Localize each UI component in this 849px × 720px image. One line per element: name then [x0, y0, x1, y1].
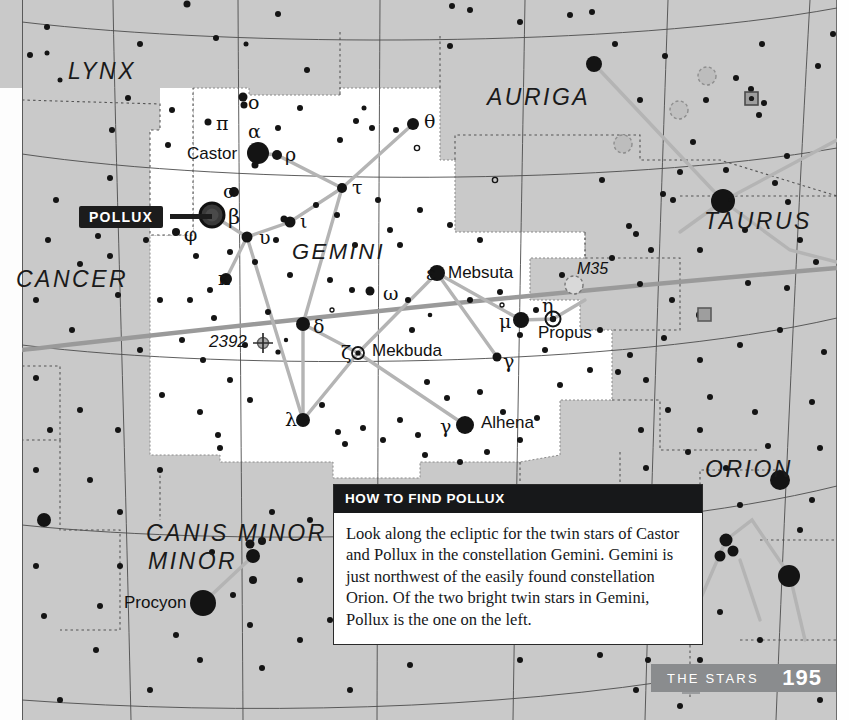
bayer-label-zeta: ζ: [341, 341, 351, 363]
how-to-find-body: Look along the ecliptic for the twin sta…: [334, 513, 702, 644]
how-to-find-title: HOW TO FIND POLLUX: [334, 485, 702, 513]
bayer-label-omega: ω: [383, 282, 399, 304]
constellation-label-canis-minor-2: MINOR: [148, 548, 237, 575]
footer-page-number: 195: [782, 665, 822, 691]
star-label-castor: Castor: [187, 144, 237, 164]
bayer-label-beta: β: [228, 205, 240, 229]
bayer-label-alpha: α: [248, 120, 261, 142]
pollux-callout-tag[interactable]: POLLUX: [79, 206, 163, 228]
constellation-label-gemini: GEMINI: [292, 239, 385, 265]
page-footer: THE STARS 195: [651, 664, 836, 692]
bayer-label-nu: γ: [503, 350, 514, 372]
bayer-label-omicron: ο: [248, 91, 259, 113]
bayer-label-epsilon: ε: [426, 262, 436, 284]
how-to-find-box: HOW TO FIND POLLUX Look along the eclipt…: [333, 484, 703, 645]
m35-cluster-symbol: [565, 276, 583, 294]
bayer-label-iota: ι: [300, 210, 307, 232]
constellation-label-taurus: TAURUS: [704, 208, 812, 235]
bayer-label-gamma: γ: [440, 415, 451, 437]
bayer-label-upsilon: υ: [259, 226, 271, 248]
dso-label-m35: M35: [577, 260, 608, 278]
footer-section-title: THE STARS: [667, 671, 759, 686]
bayer-label-rho: ρ: [285, 143, 296, 165]
constellation-label-canis-minor: CANIS MINOR: [146, 520, 327, 547]
dso-label-2392: 2392: [209, 332, 247, 352]
star-chart-page: LYNX AURIGA TAURUS GEMINI CANCER ORION C…: [0, 0, 849, 720]
bayer-label-pi: π: [216, 112, 229, 134]
constellation-label-orion: ORION: [705, 456, 793, 483]
star-label-procyon: Procyon: [124, 593, 186, 613]
bayer-label-mu: μ: [499, 310, 511, 332]
star-label-mebsuta: Mebsuta: [448, 263, 513, 283]
star-label-alhena: Alhena: [481, 413, 534, 433]
bayer-label-sigma: σ: [223, 180, 236, 202]
bayer-label-phi: φ: [184, 223, 197, 245]
star-label-propus: Propus: [538, 323, 592, 343]
star-label-mekbuda: Mekbuda: [372, 341, 442, 361]
cluster-symbol: [614, 135, 632, 153]
pollux-leader-line: [170, 214, 212, 219]
constellation-label-cancer: CANCER: [16, 266, 128, 293]
cluster-symbol: [698, 67, 716, 85]
bayer-label-theta: θ: [424, 110, 435, 132]
bayer-label-eta: η: [542, 294, 553, 316]
constellation-label-lynx: LYNX: [68, 58, 136, 85]
cluster-symbol: [670, 101, 688, 119]
bayer-label-delta: δ: [313, 315, 324, 337]
constellation-label-auriga: AURIGA: [487, 84, 590, 111]
bayer-label-lambda: λ: [285, 408, 297, 430]
bayer-label-tau: τ: [352, 176, 363, 198]
bayer-label-kappa: κ: [218, 267, 230, 289]
